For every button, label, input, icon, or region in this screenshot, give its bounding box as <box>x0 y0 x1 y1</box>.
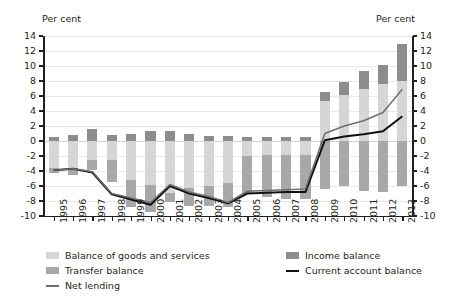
x-axis-tick-label: 2012 <box>387 199 398 223</box>
x-axis-tick-label: 2002 <box>193 199 204 223</box>
legend-item-current_account[interactable]: Current account balance <box>286 264 422 277</box>
y-axis-tick-label: 8 <box>12 76 36 86</box>
chart-legend: Balance of goods and servicesIncome bala… <box>46 249 446 294</box>
x-axis-tick <box>209 217 210 221</box>
plot-area: 1414121210108866442200-2-2-4-4-6-6-8-8-1… <box>44 36 412 216</box>
x-axis-tick <box>112 217 113 221</box>
legend-item-income[interactable]: Income balance <box>286 249 380 262</box>
y-axis-tick-label: -4 <box>12 166 36 176</box>
x-axis-tick-label: 2009 <box>329 199 340 223</box>
y-axis-tick <box>39 80 43 81</box>
y-axis-tick <box>413 80 417 81</box>
y-axis-tick-label: -6 <box>12 181 36 191</box>
y-axis-unit-right: Per cent <box>376 13 415 24</box>
y-axis-tick <box>413 170 417 171</box>
x-axis-tick-label: 2007 <box>290 199 301 223</box>
legend-label: Balance of goods and services <box>65 249 210 262</box>
legend-item-net_lending[interactable]: Net lending <box>46 279 120 292</box>
y-axis-tick-label: -6 <box>420 181 444 191</box>
x-axis-tick <box>170 217 171 221</box>
x-axis-tick <box>54 217 55 221</box>
line-series-group <box>44 36 412 216</box>
x-axis-tick <box>402 217 403 221</box>
y-axis-tick <box>39 155 43 156</box>
y-axis-tick <box>413 50 417 51</box>
legend-item-goods[interactable]: Balance of goods and services <box>46 249 210 262</box>
y-axis-tick-label: -2 <box>12 151 36 161</box>
y-axis-tick-label: 8 <box>420 76 444 86</box>
legend-swatch-icon <box>286 252 299 259</box>
legend-row: Transfer balanceCurrent account balance <box>46 264 446 279</box>
y-axis-tick-label: 2 <box>12 121 36 131</box>
line-series <box>54 89 403 202</box>
y-axis-tick <box>39 140 43 141</box>
x-axis-tick <box>92 217 93 221</box>
x-axis-tick-label: 1995 <box>58 199 69 223</box>
x-axis-tick-label: 2013 <box>406 199 417 223</box>
y-axis-tick <box>413 125 417 126</box>
x-axis-tick-label: 1996 <box>77 199 88 223</box>
y-axis-tick-label: 14 <box>420 31 444 41</box>
y-axis-tick <box>39 35 43 36</box>
y-axis-tick <box>413 35 417 36</box>
x-axis-tick-label: 2003 <box>213 199 224 223</box>
legend-row: Balance of goods and servicesIncome bala… <box>46 249 446 264</box>
y-axis-tick <box>413 95 417 96</box>
x-axis-tick-label: 1999 <box>135 199 146 223</box>
y-axis-tick <box>413 155 417 156</box>
x-axis-tick <box>131 217 132 221</box>
x-axis-tick <box>286 217 287 221</box>
x-axis-tick <box>228 217 229 221</box>
y-axis-tick <box>39 65 43 66</box>
x-axis-tick-label: 2008 <box>309 199 320 223</box>
x-axis-tick <box>247 217 248 221</box>
y-axis-tick-label: 6 <box>420 91 444 101</box>
legend-swatch-icon <box>46 252 59 259</box>
y-axis-tick <box>413 140 417 141</box>
x-axis-tick-label: 2011 <box>368 199 379 223</box>
y-axis-tick <box>39 185 43 186</box>
x-axis-tick-label: 1997 <box>96 199 107 223</box>
y-axis-tick-label: 10 <box>420 61 444 71</box>
y-axis-tick <box>413 65 417 66</box>
y-axis-tick <box>39 200 43 201</box>
x-axis-tick <box>151 217 152 221</box>
y-axis-tick-label: -4 <box>420 166 444 176</box>
y-axis-tick <box>413 110 417 111</box>
y-axis-tick-label: -2 <box>420 151 444 161</box>
x-axis-tick <box>344 217 345 221</box>
y-axis-tick <box>413 185 417 186</box>
line-series <box>54 116 403 205</box>
legend-label: Current account balance <box>305 264 422 277</box>
x-axis-tick-label: 2010 <box>348 199 359 223</box>
x-axis-tick-label: 2001 <box>174 199 185 223</box>
chart-container: Per cent Per cent 1414121210108866442200… <box>0 0 461 305</box>
y-axis-tick-label: 10 <box>12 61 36 71</box>
x-axis-tick-label: 2004 <box>232 199 243 223</box>
y-axis-tick <box>39 110 43 111</box>
y-axis-unit-left: Per cent <box>42 13 81 24</box>
y-axis-tick-label: 4 <box>420 106 444 116</box>
y-axis-tick-label: 2 <box>420 121 444 131</box>
y-axis-tick-label: 12 <box>12 46 36 56</box>
legend-swatch-icon <box>46 282 59 289</box>
legend-swatch-icon <box>286 267 299 274</box>
y-axis-tick <box>39 125 43 126</box>
y-axis-tick-label: 6 <box>12 91 36 101</box>
x-axis-tick <box>325 217 326 221</box>
x-axis-tick <box>73 217 74 221</box>
y-axis-tick-label: 0 <box>420 136 444 146</box>
y-axis-tick-label: -8 <box>420 196 444 206</box>
x-axis-tick-label: 2005 <box>251 199 262 223</box>
legend-item-transfer[interactable]: Transfer balance <box>46 264 144 277</box>
x-axis-tick-label: 1998 <box>116 199 127 223</box>
y-axis-tick <box>39 170 43 171</box>
y-axis-tick-label: 12 <box>420 46 444 56</box>
y-axis-tick-label: -10 <box>420 211 444 221</box>
y-axis-tick-label: 4 <box>12 106 36 116</box>
x-axis-tick <box>305 217 306 221</box>
y-axis-tick-label: -8 <box>12 196 36 206</box>
x-axis-tick <box>267 217 268 221</box>
legend-label: Transfer balance <box>65 264 144 277</box>
y-axis-tick-label: -10 <box>12 211 36 221</box>
